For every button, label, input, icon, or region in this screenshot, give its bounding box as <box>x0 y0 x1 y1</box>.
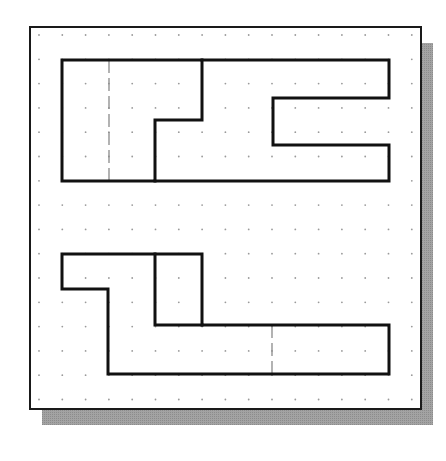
grid-dot <box>411 253 413 255</box>
grid-dot <box>294 83 296 85</box>
grid-dot <box>85 399 87 401</box>
grid-dot <box>294 253 296 255</box>
grid-dot <box>341 277 343 279</box>
grid-dot <box>131 156 133 158</box>
grid-dot <box>38 350 40 352</box>
grid-dot <box>225 253 227 255</box>
grid-dot <box>364 229 366 231</box>
grid-dot <box>225 277 227 279</box>
grid-dot <box>225 301 227 303</box>
grid-dot <box>155 229 157 231</box>
grid-dot <box>201 204 203 206</box>
grid-dot <box>38 229 40 231</box>
grid-dot <box>294 399 296 401</box>
grid-dot <box>294 131 296 133</box>
grid-dot <box>178 131 180 133</box>
grid-dot <box>294 204 296 206</box>
grid-dot <box>271 399 273 401</box>
grid-dot <box>271 156 273 158</box>
grid-dot <box>364 399 366 401</box>
grid-dot <box>38 326 40 328</box>
grid-dot <box>61 374 63 376</box>
grid-dot <box>61 301 63 303</box>
grid-dot <box>318 34 320 36</box>
grid-dot <box>294 277 296 279</box>
grid-dot <box>155 350 157 352</box>
grid-dot <box>248 277 250 279</box>
grid-dot <box>294 34 296 36</box>
grid-dot <box>341 301 343 303</box>
grid-dot <box>388 34 390 36</box>
grid-dot <box>201 399 203 401</box>
grid-dot <box>341 229 343 231</box>
grid-dot <box>131 301 133 303</box>
grid-dot <box>178 301 180 303</box>
grid-dot <box>85 83 87 85</box>
grid-dot <box>85 156 87 158</box>
drawing-canvas <box>0 0 446 461</box>
grid-dot <box>318 253 320 255</box>
grid-dot <box>248 83 250 85</box>
grid-dot <box>364 277 366 279</box>
grid-dot <box>225 131 227 133</box>
grid-dot <box>294 156 296 158</box>
grid-dot <box>318 156 320 158</box>
grid-dot <box>248 156 250 158</box>
grid-dot <box>294 107 296 109</box>
grid-dot <box>364 156 366 158</box>
grid-dot <box>61 34 63 36</box>
grid-dot <box>271 34 273 36</box>
grid-dot <box>225 204 227 206</box>
grid-dot <box>178 277 180 279</box>
grid-dot <box>364 131 366 133</box>
grid-dot <box>178 83 180 85</box>
grid-dot <box>61 326 63 328</box>
grid-dot <box>225 229 227 231</box>
grid-dot <box>201 34 203 36</box>
grid-dot <box>108 204 110 206</box>
grid-dot <box>294 229 296 231</box>
grid-dot <box>318 83 320 85</box>
grid-dot <box>364 301 366 303</box>
grid-dot <box>411 34 413 36</box>
grid-dot <box>364 204 366 206</box>
grid-dot <box>155 34 157 36</box>
grid-dot <box>341 253 343 255</box>
grid-dot <box>225 350 227 352</box>
grid-dot <box>61 229 63 231</box>
grid-dot <box>131 229 133 231</box>
grid-dot <box>85 350 87 352</box>
grid-dot <box>388 253 390 255</box>
grid-dot <box>108 277 110 279</box>
grid-dot <box>411 131 413 133</box>
grid-dot <box>341 399 343 401</box>
grid-dot <box>178 229 180 231</box>
grid-dot <box>85 107 87 109</box>
grid-dot <box>38 204 40 206</box>
grid-dot <box>131 399 133 401</box>
grid-dot <box>411 301 413 303</box>
grid-dot <box>364 350 366 352</box>
grid-dot <box>85 326 87 328</box>
grid-dot <box>411 229 413 231</box>
grid-dot <box>411 83 413 85</box>
grid-dot <box>318 301 320 303</box>
grid-dot <box>201 131 203 133</box>
grid-dot <box>388 229 390 231</box>
grid-dot <box>271 253 273 255</box>
grid-dot <box>248 399 250 401</box>
grid-dot <box>201 350 203 352</box>
grid-dot <box>38 58 40 60</box>
grid-dot <box>271 229 273 231</box>
grid-dot <box>318 277 320 279</box>
grid-dot <box>38 180 40 182</box>
grid-dot <box>271 204 273 206</box>
grid-dot <box>85 131 87 133</box>
grid-dot <box>38 131 40 133</box>
grid-dot <box>155 399 157 401</box>
grid-dot <box>108 34 110 36</box>
grid-dot <box>411 350 413 352</box>
grid-dot <box>155 204 157 206</box>
grid-dot <box>341 34 343 36</box>
grid-dot <box>38 107 40 109</box>
